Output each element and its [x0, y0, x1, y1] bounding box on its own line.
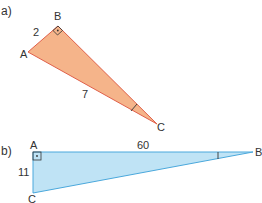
vertex-label-a-C: C: [157, 122, 165, 133]
side-label-b-AC: 11: [18, 167, 29, 178]
vertex-label-a-B: B: [54, 11, 61, 22]
vertex-label-b-A: A: [30, 140, 37, 151]
diagram-canvas: a) B 2 A 7 C b) A 60 B 11 C: [0, 0, 262, 203]
side-label-a-AB: 2: [33, 27, 39, 38]
vertex-label-b-C: C: [28, 194, 36, 203]
part-label-a: a): [1, 5, 12, 17]
triangle-b: [33, 152, 253, 193]
side-label-b-AB: 60: [137, 140, 149, 151]
side-label-a-AC: 7: [82, 89, 88, 100]
part-label-b: b): [1, 145, 12, 157]
triangles-figure: [0, 0, 262, 203]
vertex-label-a-A: A: [20, 49, 27, 60]
vertex-label-b-B: B: [255, 147, 262, 158]
triangle-a: [28, 26, 157, 124]
